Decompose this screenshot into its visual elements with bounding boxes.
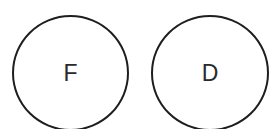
circle-node-d: D [151, 15, 269, 129]
circle-node-f: F [12, 15, 129, 129]
node-label-f: F [63, 60, 77, 87]
node-label-d: D [202, 60, 219, 87]
